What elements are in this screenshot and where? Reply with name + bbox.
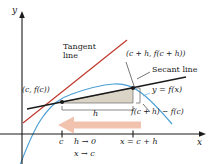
tangent-secant-figure: y x Tangent line (c + h, f(c + h)) Secan…	[0, 0, 215, 164]
x-axis-label: x	[197, 138, 202, 147]
function-label: y = f(x)	[152, 86, 182, 94]
tick-label-c-plus-h: x = c + h	[120, 138, 158, 146]
limit-x-label: x → c	[74, 150, 95, 158]
x-axis-arrowhead	[199, 131, 206, 137]
figure-canvas	[0, 0, 215, 164]
limit-direction-arrow	[58, 117, 141, 134]
tangent-line-label-line2: line	[63, 52, 96, 61]
tangent-line-label: Tangent line	[63, 43, 96, 61]
tick-label-c: c	[59, 138, 63, 146]
limit-h-label: h → 0	[74, 138, 96, 146]
leader-point-ch	[126, 62, 134, 86]
y-axis-arrowhead	[19, 11, 25, 18]
rise-label: f(c + h) − f(c)	[131, 108, 184, 116]
y-axis-label: y	[12, 6, 17, 15]
run-label: h	[93, 110, 98, 118]
secant-line-label: Secant line	[152, 66, 197, 74]
point-ch-label: (c + h, f(c + h))	[126, 50, 185, 58]
point-ch-marker	[131, 86, 135, 90]
point-c-label: (c, f(c))	[22, 86, 50, 94]
leader-secant	[137, 72, 150, 79]
point-c-marker	[60, 100, 64, 104]
